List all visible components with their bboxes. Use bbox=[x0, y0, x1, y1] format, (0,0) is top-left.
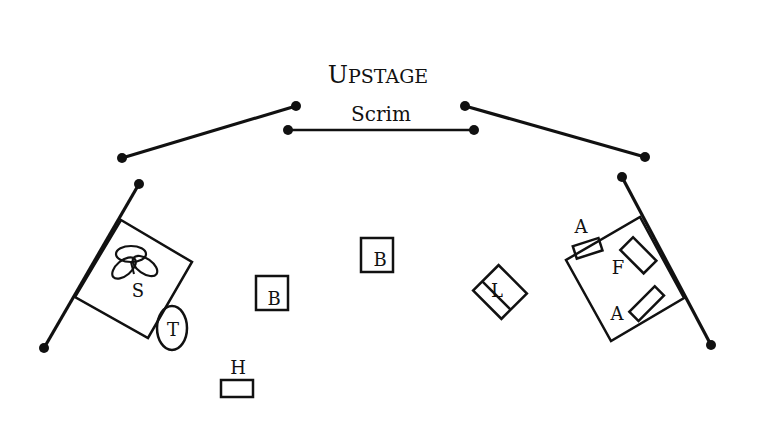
svg-text:UPSTAGE: UPSTAGE bbox=[328, 61, 428, 89]
scrim: Scrim bbox=[283, 102, 479, 135]
scrim-endpoint-dot bbox=[283, 125, 293, 135]
right-platform: A F A bbox=[566, 216, 684, 341]
box-center: B bbox=[361, 238, 393, 272]
chair-bottom-label: A bbox=[610, 303, 625, 324]
table-label: T bbox=[167, 319, 179, 340]
table: T bbox=[157, 306, 187, 350]
title-initial: U bbox=[328, 61, 348, 89]
hassock: H bbox=[221, 357, 253, 397]
scrim-label: Scrim bbox=[351, 102, 411, 126]
flat-endpoint-dot bbox=[640, 152, 650, 162]
box-left: B bbox=[256, 276, 288, 310]
footstool-label: F bbox=[612, 257, 625, 278]
wall-endpoint-dot bbox=[39, 343, 49, 353]
flat-endpoint-dot bbox=[117, 153, 127, 163]
box-left-label: B bbox=[267, 288, 280, 309]
chair-bottom-icon bbox=[629, 286, 664, 321]
wall-endpoint-dot bbox=[706, 340, 716, 350]
wall-endpoint-dot bbox=[617, 172, 627, 182]
flat-endpoint-dot bbox=[291, 101, 301, 111]
wall-endpoint-dot bbox=[134, 179, 144, 189]
scrim-endpoint-dot bbox=[469, 125, 479, 135]
upstage-left-flat bbox=[117, 101, 301, 163]
upstage-right-flat bbox=[460, 101, 650, 162]
title-rest: PSTAGE bbox=[348, 65, 428, 87]
footstool-icon bbox=[620, 237, 656, 273]
stool-cluster-icon bbox=[108, 246, 160, 283]
chair-top-label: A bbox=[574, 216, 589, 237]
upstage-title: UPSTAGE bbox=[328, 61, 428, 89]
box-center-label: B bbox=[373, 249, 386, 270]
flat-endpoint-dot bbox=[460, 101, 470, 111]
lamp-label: L bbox=[491, 280, 503, 301]
hassock-label: H bbox=[230, 357, 246, 378]
stool-cluster-label: S bbox=[132, 280, 144, 301]
stage-plan-diagram: UPSTAGE Scrim S bbox=[0, 0, 758, 422]
